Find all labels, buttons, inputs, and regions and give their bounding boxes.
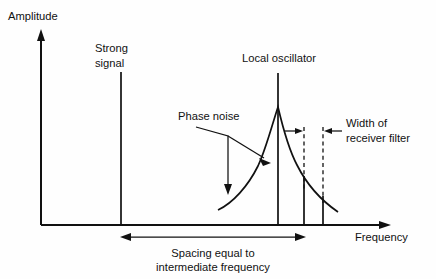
receiver-filter-label-line2: receiver filter <box>346 132 410 144</box>
receiver-filter-arrow-left-head-icon <box>295 128 303 134</box>
spacing-dimension-group <box>120 233 306 241</box>
phase-noise-diagram: Amplitude Frequency Strong signal Local … <box>0 0 436 279</box>
spacing-label-line1: Spacing equal to <box>171 247 254 259</box>
y-axis-label: Amplitude <box>8 10 58 22</box>
phase-noise-leader-right-head-icon <box>259 158 271 166</box>
phase-noise-label: Phase noise <box>178 110 240 122</box>
phase-noise-leader-left-shaft <box>196 127 228 186</box>
strong-signal-label-line2: signal <box>95 57 124 69</box>
phase-noise-leader-right-shaft <box>228 136 264 158</box>
strong-signal-label-line1: Strong <box>95 42 128 54</box>
spectrum-group <box>121 72 338 225</box>
diagram-canvas: Amplitude Frequency Strong signal Local … <box>0 0 436 279</box>
receiver-filter-label-line1: Width of <box>346 117 388 129</box>
phase-noise-leader-left-head-icon <box>224 184 232 195</box>
local-oscillator-label: Local oscillator <box>242 52 316 64</box>
axis-group <box>37 29 391 229</box>
label-group: Amplitude Frequency Strong signal Local … <box>8 10 410 273</box>
spacing-label-line2: intermediate frequency <box>156 261 270 273</box>
x-axis-arrowhead-icon <box>379 221 391 229</box>
x-axis-label: Frequency <box>355 231 408 243</box>
spacing-dimension-arrowhead-right-icon <box>295 233 306 241</box>
spacing-dimension-arrowhead-left-icon <box>120 233 131 241</box>
receiver-filter-arrow-right-head-icon <box>324 128 332 134</box>
y-axis-arrowhead-icon <box>37 29 45 41</box>
receiver-filter-marker-group <box>285 127 342 205</box>
